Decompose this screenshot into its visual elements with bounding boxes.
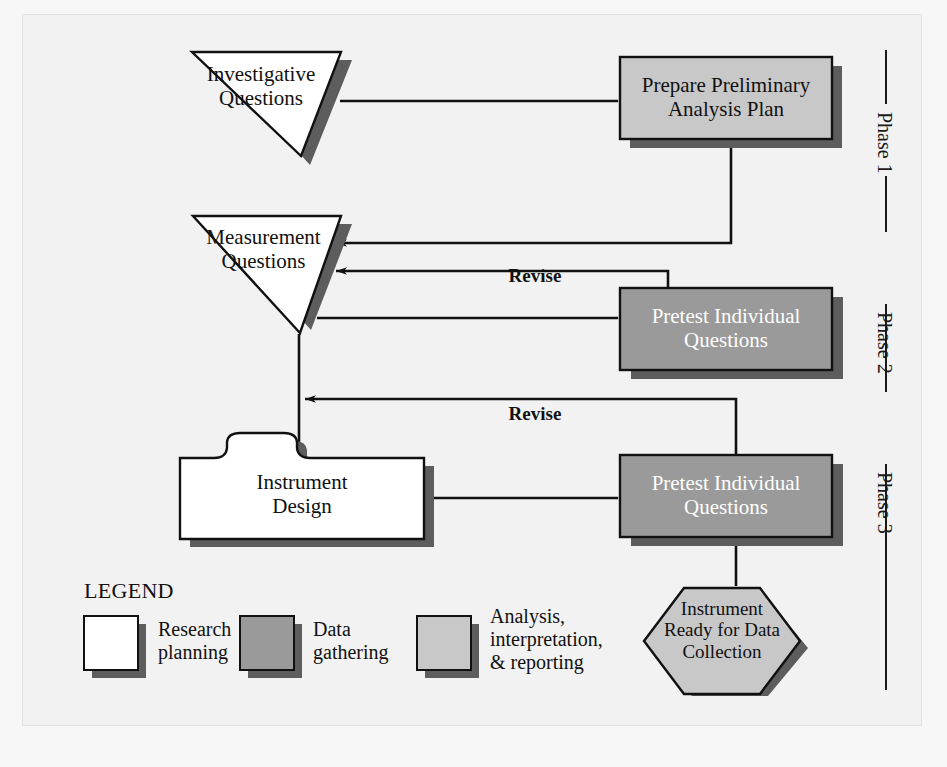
legend-swatch-research-planning — [84, 616, 138, 670]
legend-swatch-data-gathering — [240, 616, 294, 670]
measurement-questions-shape — [193, 216, 341, 333]
legend-item-research-planning-label: Research planning — [158, 618, 231, 664]
pretest1-shape — [620, 288, 832, 370]
edge-label-revise-1: Revise — [460, 265, 610, 287]
node-pretest-individual-questions-1[interactable] — [620, 288, 843, 379]
node-instrument-design[interactable] — [180, 433, 434, 547]
phase-label-1: Phase 1 — [873, 112, 896, 174]
node-prepare-preliminary-analysis-plan[interactable] — [620, 57, 842, 148]
legend-title: LEGEND — [84, 578, 174, 604]
edge-label-revise-2: Revise — [460, 403, 610, 425]
diagram-vector-layer — [0, 0, 947, 767]
flowchart-canvas: Investigative Questions Prepare Prelimin… — [0, 0, 947, 767]
node-pretest-individual-questions-2[interactable] — [620, 455, 843, 546]
node-measurement-questions[interactable] — [193, 216, 352, 333]
legend-item-data-gathering-label: Data gathering — [313, 618, 389, 664]
phase-label-3: Phase 3 — [873, 472, 896, 534]
legend-swatch-analysis — [417, 616, 471, 670]
edge-analysis-plan-to-measurement — [336, 147, 731, 243]
phase-label-2: Phase 2 — [873, 312, 896, 374]
node-instrument-ready-for-data-collection[interactable] — [644, 588, 808, 696]
legend-item-analysis-label: Analysis, interpretation, & reporting — [490, 605, 603, 673]
node-investigative-questions[interactable] — [192, 52, 352, 165]
pretest2-shape — [620, 455, 832, 537]
legend-swatch-group — [84, 616, 479, 678]
analysis-plan-shape — [620, 57, 832, 139]
